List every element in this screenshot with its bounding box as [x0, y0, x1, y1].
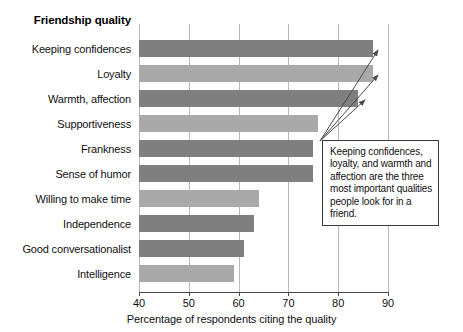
- category-label: Willing to make time: [0, 193, 131, 205]
- x-axis-tick: [139, 292, 140, 296]
- category-label: Warmth, affection: [0, 93, 131, 105]
- bar: [139, 215, 254, 232]
- x-axis-tick: [239, 292, 240, 296]
- category-label: Independence: [0, 218, 131, 230]
- x-axis-tick-label: 70: [268, 297, 308, 309]
- bar: [139, 190, 259, 207]
- bar: [139, 140, 313, 157]
- bar: [139, 40, 373, 57]
- bar: [139, 90, 358, 107]
- x-axis-tick-label: 60: [219, 297, 259, 309]
- category-label: Good conversationalist: [0, 243, 131, 255]
- bar: [139, 65, 373, 82]
- category-label: Sense of humor: [0, 168, 131, 180]
- x-axis-tick-label: 90: [368, 297, 408, 309]
- x-axis-line: [139, 292, 389, 293]
- x-axis-tick: [388, 292, 389, 296]
- bar: [139, 240, 244, 257]
- x-axis-title: Percentage of respondents citing the qua…: [0, 313, 463, 325]
- x-axis-tick-label: 40: [119, 297, 159, 309]
- bar: [139, 165, 313, 182]
- category-label: Loyalty: [0, 68, 131, 80]
- category-label: Frankness: [0, 143, 131, 155]
- bar: [139, 265, 234, 282]
- friendship-quality-bar-chart: Friendship quality Keeping confidencesLo…: [0, 0, 463, 332]
- category-axis-title: Friendship quality: [0, 14, 131, 26]
- x-axis-tick: [189, 292, 190, 296]
- bar: [139, 115, 318, 132]
- x-axis-tick: [288, 292, 289, 296]
- x-axis-tick: [338, 292, 339, 296]
- x-axis-tick-label: 50: [169, 297, 209, 309]
- category-label: Keeping confidences: [0, 43, 131, 55]
- x-axis-tick-label: 80: [318, 297, 358, 309]
- callout-annotation: Keeping confidences, loyalty, and warmth…: [322, 140, 439, 226]
- category-label: Intelligence: [0, 268, 131, 280]
- category-label: Supportiveness: [0, 118, 131, 130]
